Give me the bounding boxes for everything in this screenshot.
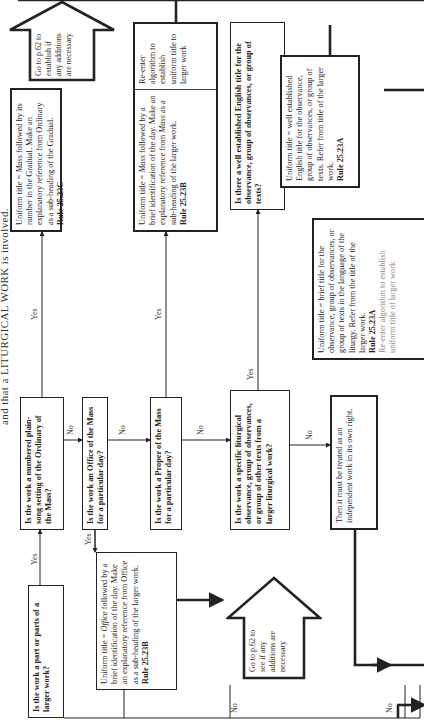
result-office-uniform-title: Uniform title = Office followed by a bri…: [96, 552, 177, 690]
rule-reference: Rule 25.23C: [56, 95, 66, 225]
question-numbered-plainsong: Is the work a numbered plain-song settin…: [20, 397, 64, 530]
question-proper-of-mass: Is the work a Proper of the Mass for a p…: [150, 397, 182, 530]
result-text: Then it must be treated as an independen…: [335, 409, 354, 523]
question-text: Is the work a specific liturgical observ…: [234, 403, 274, 524]
yes-label: Yes: [84, 533, 93, 545]
rule-reference: Rule 25.23A: [336, 62, 346, 181]
no-label: No: [305, 430, 314, 440]
yes-label: Yes: [246, 368, 255, 380]
question-text: Is the work an Office of the Mass for a …: [86, 407, 105, 524]
result-emphasis: Mass: [138, 155, 147, 173]
re-enter-text: Re-enter algorithm to establish uniform …: [138, 34, 188, 84]
result-text: Uniform title = brief title for the obse…: [317, 230, 367, 354]
result-main-cell: Uniform title = Mass followed by a brief…: [135, 90, 216, 230]
rule-reference: Rule 25.23B: [141, 558, 151, 684]
result-text: Uniform title =: [138, 173, 147, 225]
result-brief-uniform-title: Uniform title = brief title for the obse…: [312, 218, 424, 360]
result-emphasis: Office: [100, 611, 109, 631]
question-text: Is there a well established English titl…: [234, 41, 263, 204]
goto-p62-arrow-top: Go to p.62 to establish if any additions…: [8, 0, 116, 82]
question-text: Is the work a Proper of the Mass for a p…: [154, 408, 173, 524]
rule-reference: Rule 25.23A: [368, 225, 378, 353]
question-text: Is the work a numbered plain-song settin…: [24, 415, 53, 524]
flowchart-page: and that a LITURGICAL WORK is involved.: [0, 0, 424, 725]
result-text: Uniform title =: [15, 173, 24, 225]
no-label: No: [385, 703, 394, 713]
yes-label: Yes: [30, 553, 39, 565]
result-emphasis: Mass: [158, 115, 167, 133]
question-part-of-larger-work: Is the work a part or parts of a larger …: [28, 585, 64, 718]
yes-label: Yes: [154, 308, 163, 320]
question-specific-liturgical: Is the work a specific liturgical observ…: [230, 390, 290, 530]
no-label: No: [66, 425, 75, 435]
result-gradual-uniform-title: Uniform title = Mass followed by its num…: [10, 88, 62, 232]
result-text: Uniform title =: [100, 632, 109, 684]
result-english-uniform-title: Uniform title = well established English…: [280, 55, 360, 188]
result-independent-work: Then it must be treated as an independen…: [330, 395, 378, 530]
question-office-of-mass: Is the work an Office of the Mass for a …: [82, 397, 108, 530]
yes-label: Yes: [30, 308, 39, 320]
goto-p62-arrow-middle: Go to p.62 to see if any additions are n…: [226, 576, 322, 680]
no-label: No: [118, 425, 127, 435]
question-text: Is the work a part or parts of a larger …: [32, 603, 51, 712]
result-text: Uniform title = well established English…: [285, 67, 335, 181]
goto-text: Go to p.62 to see if any additions are n…: [248, 618, 288, 672]
rule-reference: Rule 25.23B: [179, 95, 189, 225]
result-emphasis: Mass: [15, 155, 24, 173]
result-mass-day-uniform-title: Uniform title = Mass followed by a brief…: [133, 22, 218, 232]
re-enter-text: Re-enter algorithm to establish uniform …: [378, 250, 397, 353]
no-label: No: [196, 425, 205, 435]
question-english-title: Is there a well established English titl…: [230, 22, 285, 210]
goto-text: Go to p.62 to establish if any additions…: [34, 30, 74, 76]
re-enter-cell: Re-enter algorithm to establish uniform …: [135, 24, 216, 90]
no-label: No: [230, 703, 239, 713]
